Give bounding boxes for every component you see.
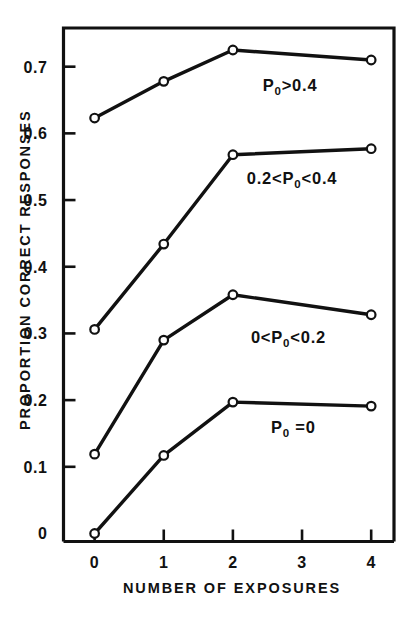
series-label-subscript: 0: [283, 427, 290, 439]
x-tick-label: 0: [90, 554, 100, 571]
series-label-subscript: 0: [283, 337, 290, 349]
y-axis-title: PROPORTION CORRECT RESPONSES: [17, 109, 33, 430]
series-label-post: <0.4: [302, 169, 338, 187]
data-point-marker: [159, 77, 168, 86]
data-point-marker: [90, 529, 99, 538]
series-label-pre: P: [271, 418, 283, 436]
x-tick-label: 1: [159, 554, 169, 571]
x-axis-title: NUMBER OF EXPOSURES: [123, 580, 341, 596]
data-point-marker: [90, 114, 99, 123]
data-point-marker: [367, 402, 376, 411]
series-label-0: P0>0.4: [263, 76, 318, 97]
data-point-marker: [367, 310, 376, 319]
series-label-post: <0.2: [290, 328, 326, 346]
data-point-marker: [367, 56, 376, 65]
series-label-post: =0: [290, 418, 316, 436]
x-tick-label: 3: [297, 554, 307, 571]
series-label-subscript: 0: [294, 178, 301, 190]
x-tick-label: 2: [228, 554, 238, 571]
series-label-pre: 0<P: [251, 328, 283, 346]
line-chart: 00.10.20.30.40.50.60.7 01234 P0>0.40.2<P…: [0, 0, 417, 620]
data-point-marker: [159, 451, 168, 460]
data-point-marker: [229, 290, 238, 299]
data-point-marker: [229, 398, 238, 407]
data-point-marker: [90, 325, 99, 334]
y-tick-label: 0.7: [23, 59, 47, 76]
series-label-post: >0.4: [282, 76, 318, 94]
series-label-1: 0.2<P0<0.4: [247, 169, 338, 190]
data-point-marker: [90, 450, 99, 459]
data-point-marker: [229, 150, 238, 159]
data-point-marker: [159, 336, 168, 345]
series-label-pre: P: [263, 76, 275, 94]
figure-container: 00.10.20.30.40.50.60.7 01234 P0>0.40.2<P…: [0, 0, 417, 620]
series-label-pre: 0.2<P: [247, 169, 295, 187]
series-label-3: P0 =0: [271, 418, 316, 439]
series-label-subscript: 0: [274, 85, 281, 97]
data-point-marker: [229, 46, 238, 55]
data-point-marker: [159, 240, 168, 249]
y-tick-label: 0: [38, 525, 48, 542]
y-tick-label: 0.1: [23, 459, 47, 476]
x-tick-label: 4: [366, 554, 376, 571]
data-point-marker: [367, 144, 376, 153]
